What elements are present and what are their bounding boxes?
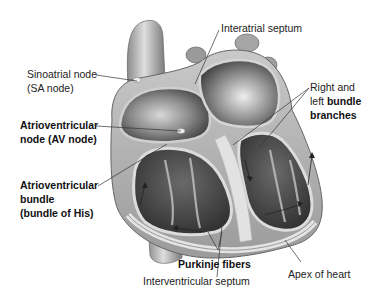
label-branches-line1: Right and — [310, 80, 361, 94]
label-his-line2: bundle — [20, 192, 98, 206]
label-av-node: Atrioventricular node (AV node) — [20, 118, 98, 146]
label-apex-of-heart: Apex of heart — [288, 267, 350, 281]
heart-conduction-diagram: Interatrial septum Sinoatrial node (SA n… — [0, 0, 378, 297]
label-av-node-line2: node (AV node) — [20, 132, 98, 146]
label-branches-left: left — [310, 95, 327, 107]
label-interatrial-septum: Interatrial septum — [221, 21, 302, 35]
label-bundle-branches: Right and left bundle branches — [310, 80, 361, 122]
label-branches-line3: branches — [310, 108, 361, 122]
label-purkinje-fibers: Purkinje fibers — [178, 257, 251, 271]
label-av-node-line1: Atrioventricular — [20, 118, 98, 132]
label-his-line1: Atrioventricular — [20, 178, 98, 192]
label-branches-line2: left bundle — [310, 94, 361, 108]
label-his-line3: (bundle of His) — [20, 206, 98, 220]
label-interventricular-septum: Interventricular septum — [143, 274, 250, 288]
label-sa-node-line1: Sinoatrial node — [27, 67, 97, 81]
label-branches-bundle: bundle — [327, 95, 361, 107]
label-sa-node-line2: (SA node) — [27, 81, 97, 95]
heart-illustration — [0, 0, 378, 297]
label-bundle-of-his: Atrioventricular bundle (bundle of His) — [20, 178, 98, 220]
label-sa-node: Sinoatrial node (SA node) — [27, 67, 97, 95]
